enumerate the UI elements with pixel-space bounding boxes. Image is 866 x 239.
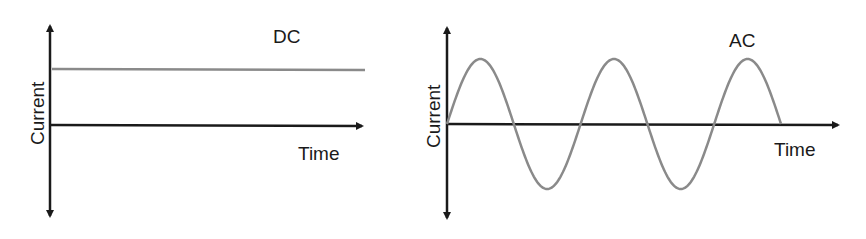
ac-x-label: Time: [774, 139, 816, 160]
dc-panel: DC Time Current: [27, 26, 365, 216]
dc-title: DC: [273, 26, 300, 47]
current-diagram: DC Time Current AC Time Current: [0, 0, 866, 239]
ac-x-axis: [447, 124, 838, 125]
ac-y-label: Current: [423, 84, 444, 148]
dc-x-axis: [50, 125, 362, 126]
ac-panel: AC Time Current: [423, 28, 838, 218]
dc-x-label: Time: [298, 143, 340, 164]
dc-y-label: Current: [27, 81, 48, 145]
ac-title: AC: [729, 30, 755, 51]
dc-signal-line: [52, 69, 365, 70]
